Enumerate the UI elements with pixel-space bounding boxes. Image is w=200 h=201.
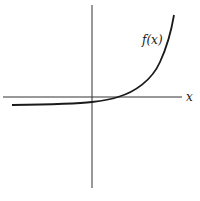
x-axis-label: x (186, 90, 193, 104)
function-graph: f(x) x (0, 0, 200, 201)
function-curve (12, 15, 174, 105)
curve-label: f(x) (141, 33, 163, 47)
